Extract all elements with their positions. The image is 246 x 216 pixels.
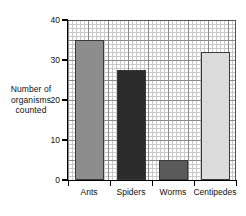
y-tick-20 bbox=[62, 99, 68, 100]
bar-spiders bbox=[117, 70, 146, 180]
x-tick-1 bbox=[110, 181, 111, 186]
bar-chart: Number of organisms counted 010203040 An… bbox=[0, 0, 246, 216]
plot-border-top bbox=[68, 20, 236, 21]
y-tick-label-20: 20 bbox=[38, 96, 60, 105]
bar-ants bbox=[75, 40, 104, 180]
x-tick-3 bbox=[194, 181, 195, 186]
plot-border-right bbox=[235, 20, 236, 180]
x-tick-0 bbox=[68, 181, 69, 186]
bar-worms bbox=[159, 160, 188, 180]
y-axis-title-line-1: Number of bbox=[2, 84, 60, 95]
y-tick-label-10: 10 bbox=[38, 136, 60, 145]
x-tick-2 bbox=[152, 181, 153, 186]
bar-centipedes bbox=[201, 52, 230, 180]
y-tick-label-30: 30 bbox=[38, 56, 60, 65]
y-tick-10 bbox=[62, 139, 68, 140]
x-tick-4 bbox=[236, 181, 237, 186]
y-tick-30 bbox=[62, 59, 68, 60]
y-tick-40 bbox=[62, 19, 68, 20]
y-axis-title-line-3: counted bbox=[2, 105, 60, 116]
x-axis-label-centipedes: Centipedes bbox=[185, 188, 245, 197]
plot-area bbox=[68, 20, 236, 180]
y-tick-label-0: 0 bbox=[38, 176, 60, 185]
y-tick-label-40: 40 bbox=[38, 16, 60, 25]
